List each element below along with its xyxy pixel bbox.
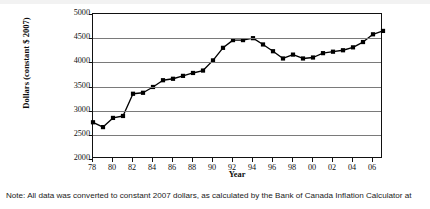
data-point-marker <box>381 29 385 33</box>
y-tick-label: 4000 <box>56 57 90 65</box>
gridline <box>93 62 381 63</box>
gridline <box>93 38 381 39</box>
y-tick-label: 2500 <box>56 130 90 138</box>
data-point-marker <box>361 40 365 44</box>
data-point-marker <box>271 49 275 53</box>
x-tick-mark <box>232 158 233 162</box>
x-tick-mark <box>312 158 313 162</box>
data-point-marker <box>221 46 225 50</box>
data-point-marker <box>301 56 305 60</box>
data-point-marker <box>171 77 175 81</box>
chart-figure: Dollars (constant $ 2007) 20002500300035… <box>0 0 430 182</box>
data-point-marker <box>321 51 325 55</box>
y-tick-label: 4500 <box>56 33 90 41</box>
data-point-marker <box>141 91 145 95</box>
gridline <box>93 87 381 88</box>
y-tick-mark <box>89 111 93 112</box>
y-tick-mark <box>89 135 93 136</box>
data-point-marker <box>121 114 125 118</box>
y-axis-title: Dollars (constant $ 2007) <box>21 0 31 133</box>
y-tick-mark <box>89 38 93 39</box>
x-tick-mark <box>352 158 353 162</box>
data-point-marker <box>261 42 265 46</box>
x-tick-mark <box>372 158 373 162</box>
x-axis-title: Year <box>92 170 382 179</box>
data-point-marker <box>311 55 315 59</box>
data-point-marker <box>101 125 105 129</box>
y-tick-label: 3500 <box>56 82 90 90</box>
figure-note: Note: All data was converted to constant… <box>6 190 430 201</box>
y-tick-label: 5000 <box>56 9 90 17</box>
y-tick-mark <box>89 62 93 63</box>
y-tick-label: 2000 <box>56 154 90 162</box>
x-tick-mark <box>152 158 153 162</box>
data-point-marker <box>181 74 185 78</box>
data-point-marker <box>161 78 165 82</box>
x-tick-mark <box>292 158 293 162</box>
data-point-marker <box>331 50 335 54</box>
data-point-marker <box>91 120 95 124</box>
data-point-marker <box>291 53 295 57</box>
series-line <box>93 31 383 127</box>
data-point-marker <box>131 92 135 96</box>
y-axis-tick-labels: 2000250030003500400045005000 <box>52 0 90 182</box>
data-point-marker <box>371 32 375 36</box>
data-point-marker <box>281 56 285 60</box>
data-point-marker <box>201 68 205 72</box>
data-point-marker <box>351 45 355 49</box>
x-tick-mark <box>252 158 253 162</box>
x-tick-mark <box>212 158 213 162</box>
gridline <box>93 135 381 136</box>
data-point-marker <box>191 71 195 75</box>
x-tick-mark <box>272 158 273 162</box>
x-tick-mark <box>332 158 333 162</box>
x-tick-mark <box>92 158 93 162</box>
y-tick-mark <box>89 14 93 15</box>
x-tick-mark <box>192 158 193 162</box>
y-tick-mark <box>89 87 93 88</box>
plot-area <box>92 13 382 158</box>
y-tick-label: 3000 <box>56 106 90 114</box>
x-tick-mark <box>112 158 113 162</box>
data-point-marker <box>111 116 115 120</box>
data-point-marker <box>341 48 345 52</box>
gridline <box>93 111 381 112</box>
x-tick-mark <box>132 158 133 162</box>
x-tick-mark <box>172 158 173 162</box>
